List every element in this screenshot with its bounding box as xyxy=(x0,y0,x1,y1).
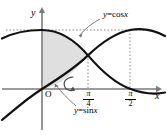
tick-label-pi-over-2: π 2 xyxy=(125,90,136,108)
pi-over-4-numerator: π xyxy=(83,90,94,98)
sin-leader-arrowhead xyxy=(55,84,59,88)
y-axis-arrowhead xyxy=(39,7,45,13)
cosine-curve-label: y=cosx xyxy=(103,10,128,19)
x-axis-label: x xyxy=(155,91,159,101)
trig-curves-figure: y x O π 4 π 2 y=cosx y=sinx xyxy=(0,0,167,135)
pi-over-2-numerator: π xyxy=(125,90,136,98)
origin-label: O xyxy=(45,90,52,99)
cos-label-rhs: cos xyxy=(112,9,124,19)
cos-label-var: x xyxy=(124,9,128,19)
pi-over-2-denominator: 2 xyxy=(125,100,136,108)
y-axis-label: y xyxy=(31,8,35,18)
cosine-curve-path xyxy=(2,30,165,93)
sine-curve-label: y=sinx xyxy=(74,106,98,115)
sin-label-rhs: sin xyxy=(83,105,94,115)
sin-label-var: x xyxy=(94,105,98,115)
cos-leader-line xyxy=(79,19,100,36)
